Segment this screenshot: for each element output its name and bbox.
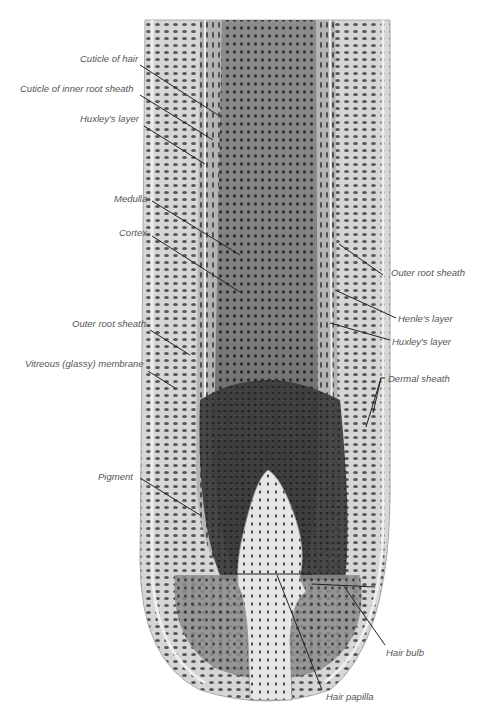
label-cortex: Cortex bbox=[119, 227, 147, 238]
label-huxleys-layer-left: Huxley's layer bbox=[80, 113, 139, 124]
label-hair-papilla: Hair papilla bbox=[326, 691, 374, 702]
label-cuticle-of-hair: Cuticle of hair bbox=[80, 53, 138, 64]
hair-follicle-diagram: Cuticle of hair Cuticle of inner root sh… bbox=[0, 0, 485, 720]
label-vitreous-membrane: Vitreous (glassy) membrane bbox=[25, 358, 144, 369]
label-outer-root-sheath-right: Outer root sheath bbox=[391, 267, 465, 278]
label-henles-layer: Henle's layer bbox=[398, 313, 453, 324]
label-dermal-sheath: Dermal sheath bbox=[388, 373, 450, 384]
label-outer-root-sheath-left: Outer root sheath bbox=[72, 318, 146, 329]
label-huxleys-layer-right: Huxley's layer bbox=[392, 336, 451, 347]
label-hair-bulb: Hair bulb bbox=[386, 647, 424, 658]
label-medulla: Medulla bbox=[114, 193, 147, 204]
label-cuticle-of-inner-root-sheath: Cuticle of inner root sheath bbox=[20, 83, 134, 94]
label-pigment: Pigment bbox=[98, 471, 133, 482]
